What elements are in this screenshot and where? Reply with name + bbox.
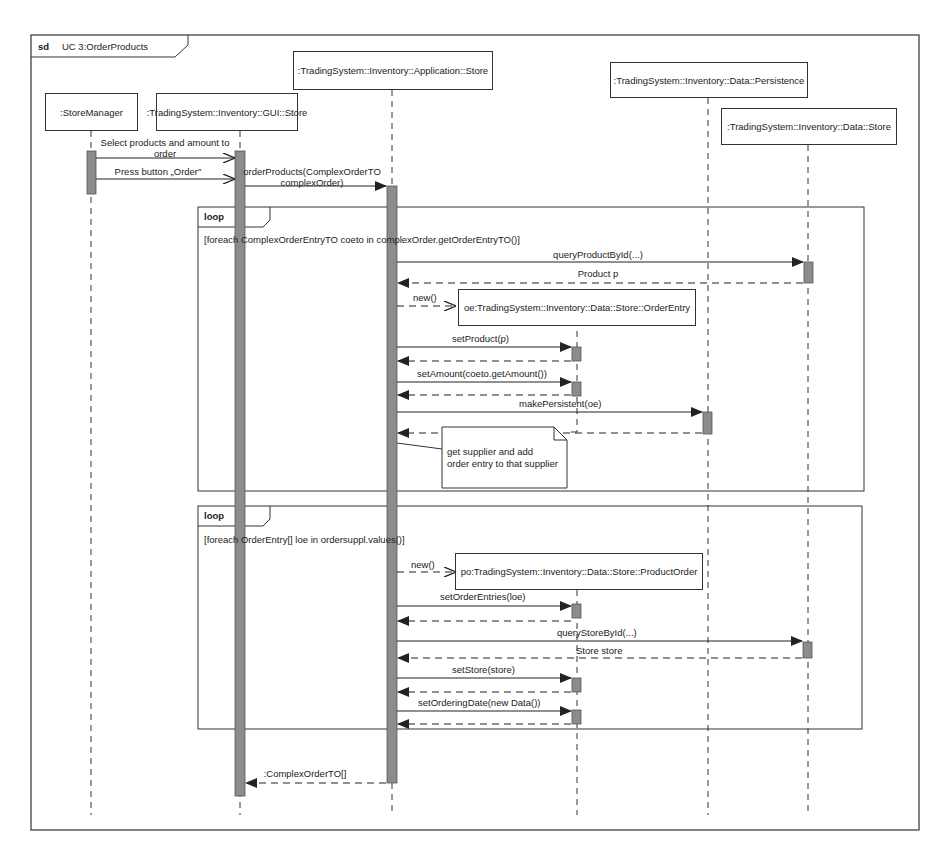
- lifeline-head-persistence[interactable]: :TradingSystem::Inventory::Data::Persist…: [610, 62, 808, 98]
- activation-storemanager: [87, 151, 96, 194]
- lifeline-label: oe:TradingSystem::Inventory::Data::Store…: [464, 302, 690, 313]
- msg-label-store-store: Store store: [576, 645, 622, 656]
- activation-app-store: [387, 186, 397, 783]
- lifeline-head-data-store[interactable]: :TradingSystem::Inventory::Data::Store: [721, 108, 897, 145]
- loop-guard-1: [foreach ComplexOrderEntryTO coeto in co…: [204, 234, 520, 245]
- loop-guard-2: [foreach OrderEntry[] loe in ordersuppl.…: [204, 534, 405, 545]
- activation-product-order-2: [572, 678, 581, 692]
- msg-label-set-order-entries: setOrderEntries(loe): [440, 591, 526, 602]
- msg-label-select-products-1: Select products and amount to: [101, 137, 230, 148]
- activation-persistence: [703, 412, 712, 434]
- msg-label-return-complex: :ComplexOrderTO[]: [264, 768, 347, 779]
- lifeline-label: :TradingSystem::Inventory::GUI::Store: [147, 107, 308, 118]
- lifeline-head-storemanager[interactable]: :StoreManager: [45, 93, 138, 131]
- msg-label-set-amount: setAmount(coeto.getAmount()): [417, 368, 547, 379]
- activation-order-entry-1: [572, 347, 581, 361]
- note-text-2: order entry to that supplier: [447, 458, 558, 469]
- lifeline-label: :TradingSystem::Inventory::Data::Store: [727, 121, 891, 132]
- msg-label-order-products-1: orderProducts(ComplexOrderTO: [243, 166, 381, 177]
- loop-operator-2: loop: [204, 510, 224, 521]
- note-anchor: [397, 443, 442, 449]
- msg-label-query-product: queryProductById(...): [553, 249, 643, 260]
- lifeline-label: po:TradingSystem::Inventory::Data::Store…: [461, 566, 698, 577]
- activation-gui-store: [235, 151, 245, 796]
- msg-label-new-oe: new(): [413, 292, 437, 303]
- msg-label-set-ordering-date: setOrderingDate(new Data()): [418, 697, 541, 708]
- lifeline-head-gui-store[interactable]: :TradingSystem::Inventory::GUI::Store: [156, 93, 298, 131]
- activation-product-order-3: [572, 710, 581, 724]
- loop-operator-1: loop: [204, 211, 224, 222]
- activation-data-store-1: [804, 262, 813, 283]
- frame-title: UC 3:OrderProducts: [62, 41, 148, 52]
- msg-label-press-order: Press button „Order": [115, 166, 202, 177]
- activation-data-store-2: [803, 642, 812, 658]
- frame-keyword: sd: [38, 41, 49, 52]
- activation-product-order-1: [572, 604, 581, 618]
- lifeline-label: :TradingSystem::Inventory::Application::…: [298, 65, 488, 76]
- lifeline-label: :TradingSystem::Inventory::Data::Persist…: [614, 75, 805, 86]
- lifeline-label: :StoreManager: [60, 107, 123, 118]
- msg-label-make-persistent: makePersistent(oe): [519, 398, 601, 409]
- msg-label-query-store: queryStoreById(...): [557, 627, 637, 638]
- msg-label-order-products-2: complexOrder): [281, 177, 344, 188]
- msg-label-new-po: new(): [411, 559, 435, 570]
- msg-label-product-p: Product p: [578, 268, 619, 279]
- msg-label-select-products-2: order: [154, 148, 176, 159]
- msg-label-set-store: setStore(store): [452, 664, 515, 675]
- msg-label-set-product: setProduct(p): [452, 333, 509, 344]
- activation-order-entry-2: [572, 382, 581, 396]
- lifeline-head-product-order[interactable]: po:TradingSystem::Inventory::Data::Store…: [455, 553, 703, 590]
- note-text-1: get supplier and add: [447, 446, 533, 457]
- lifeline-head-app-store[interactable]: :TradingSystem::Inventory::Application::…: [293, 51, 493, 90]
- lifeline-head-order-entry[interactable]: oe:TradingSystem::Inventory::Data::Store…: [458, 289, 696, 326]
